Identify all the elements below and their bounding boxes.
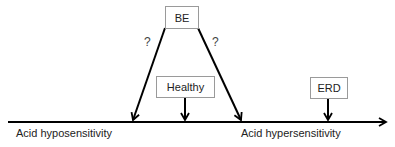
be-hyper-arrow: [198, 28, 241, 120]
be-node-label: BE: [175, 12, 190, 24]
healthy-node-label: Healthy: [167, 81, 204, 93]
axis-right-label: Acid hypersensitivity: [241, 127, 341, 139]
axis-left-label: Acid hyposensitivity: [16, 127, 112, 139]
erd-node-label: ERD: [317, 82, 340, 94]
healthy-node: Healthy: [156, 76, 215, 98]
question-mark-left: ?: [144, 35, 151, 49]
question-mark-right: ?: [212, 35, 219, 49]
be-node: BE: [165, 6, 199, 29]
erd-node: ERD: [310, 77, 348, 99]
